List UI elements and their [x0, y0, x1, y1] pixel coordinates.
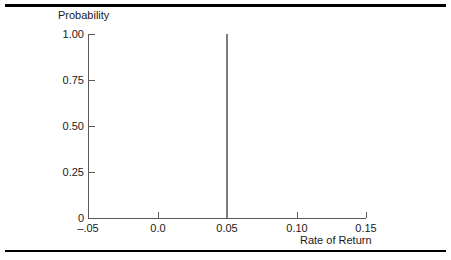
- y-tick-label: 1.00: [50, 28, 84, 40]
- y-tick-mark: [89, 80, 95, 81]
- y-tick-mark: [89, 34, 95, 35]
- x-tick-mark: [366, 212, 367, 218]
- y-tick-mark: [89, 218, 95, 219]
- x-axis-title: Rate of Return: [300, 234, 372, 247]
- y-tick-mark: [89, 126, 95, 127]
- y-axis-title: Probability: [58, 9, 109, 22]
- x-tick-mark: [88, 212, 89, 218]
- x-tick-label: 0.05: [204, 222, 250, 234]
- probability-distribution-chart: Probability Rate of Return 1.000.750.500…: [0, 0, 451, 260]
- y-tick-label: 0.25: [50, 166, 84, 178]
- probability-spike-bar: [226, 34, 228, 218]
- y-tick-label: 0.75: [50, 74, 84, 86]
- x-tick-label: 0.0: [135, 222, 181, 234]
- y-tick-label: 0.50: [50, 120, 84, 132]
- x-tick-label: 0.10: [274, 222, 320, 234]
- x-axis-line: [88, 218, 366, 219]
- x-tick-label: –.05: [65, 222, 111, 234]
- top-rule: [5, 4, 446, 7]
- x-tick-label: 0.15: [343, 222, 389, 234]
- x-tick-mark: [158, 212, 159, 218]
- x-tick-mark: [297, 212, 298, 218]
- bottom-rule: [5, 250, 446, 252]
- y-tick-mark: [89, 172, 95, 173]
